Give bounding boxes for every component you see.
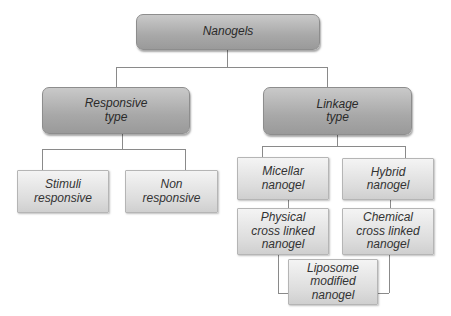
node-label-line1: Physical [261, 210, 306, 224]
node-liposome-modified-nanogel: Liposomemodifiednanogel [288, 259, 378, 305]
node-label-line1: Chemical [363, 210, 413, 224]
connector-to-linkage [327, 67, 328, 87]
node-label-line2: cross linked [251, 224, 314, 238]
node-chemical-cross-linked-nanogel: Chemicalcross linkednanogel [342, 208, 434, 255]
node-nanogels: Nanogels [136, 14, 320, 50]
node-label-line1: Linkage [316, 97, 358, 111]
node-responsive-type: Responsivetype [42, 87, 190, 134]
connector-to-micellar [262, 146, 263, 157]
connector-chemical-liposome-h [378, 293, 389, 294]
node-non-responsive: Nonresponsive [125, 170, 218, 213]
node-label-line3: nanogel [312, 288, 355, 302]
connector-linkage-down [337, 135, 338, 146]
node-label-line2: responsive [142, 191, 200, 205]
connector-hybrid-chemical [390, 200, 391, 208]
connector-chemical-liposome-v [389, 255, 390, 293]
node-label-line1: Responsive [85, 96, 148, 110]
connector-root-horizontal [116, 67, 328, 68]
node-label-line3: nanogel [262, 237, 305, 251]
node-linkage-type: Linkagetype [263, 87, 412, 135]
connector-responsive-horizontal [42, 149, 186, 150]
node-label-line2: modified [310, 274, 355, 288]
node-label-line2: nanogel [262, 178, 305, 192]
connector-physical-liposome-v [278, 255, 279, 293]
node-label-line3: nanogel [367, 237, 410, 251]
connector-to-hybrid [405, 146, 406, 158]
node-physical-cross-linked-nanogel: Physicalcross linkednanogel [237, 208, 329, 255]
connector-responsive-down [122, 134, 123, 149]
node-label-line2: nanogel [367, 178, 410, 192]
node-label-line2: type [326, 110, 349, 124]
connector-to-non [185, 149, 186, 170]
node-label-line1: Hybrid [371, 165, 406, 179]
node-label: Nanogels [203, 25, 254, 38]
node-stimuli-responsive: Stimuliresponsive [17, 170, 109, 213]
connector-physical-liposome-h [278, 293, 288, 294]
node-label-line2: responsive [34, 191, 92, 205]
node-label-line1: Stimuli [45, 177, 81, 191]
connector-to-responsive [116, 67, 117, 87]
connector-linkage-horizontal [262, 146, 406, 147]
node-micellar-nanogel: Micellarnanogel [237, 157, 329, 200]
node-label-line1: Non [160, 177, 182, 191]
connector-to-stimuli [42, 149, 43, 170]
node-label-line2: cross linked [356, 224, 419, 238]
node-hybrid-nanogel: Hybridnanogel [342, 158, 434, 200]
connector-micellar-physical [288, 200, 289, 208]
node-label-line1: Micellar [262, 164, 303, 178]
node-label-line1: Liposome [307, 261, 359, 275]
connector-root-down [227, 50, 228, 67]
node-label-line2: type [105, 110, 128, 124]
